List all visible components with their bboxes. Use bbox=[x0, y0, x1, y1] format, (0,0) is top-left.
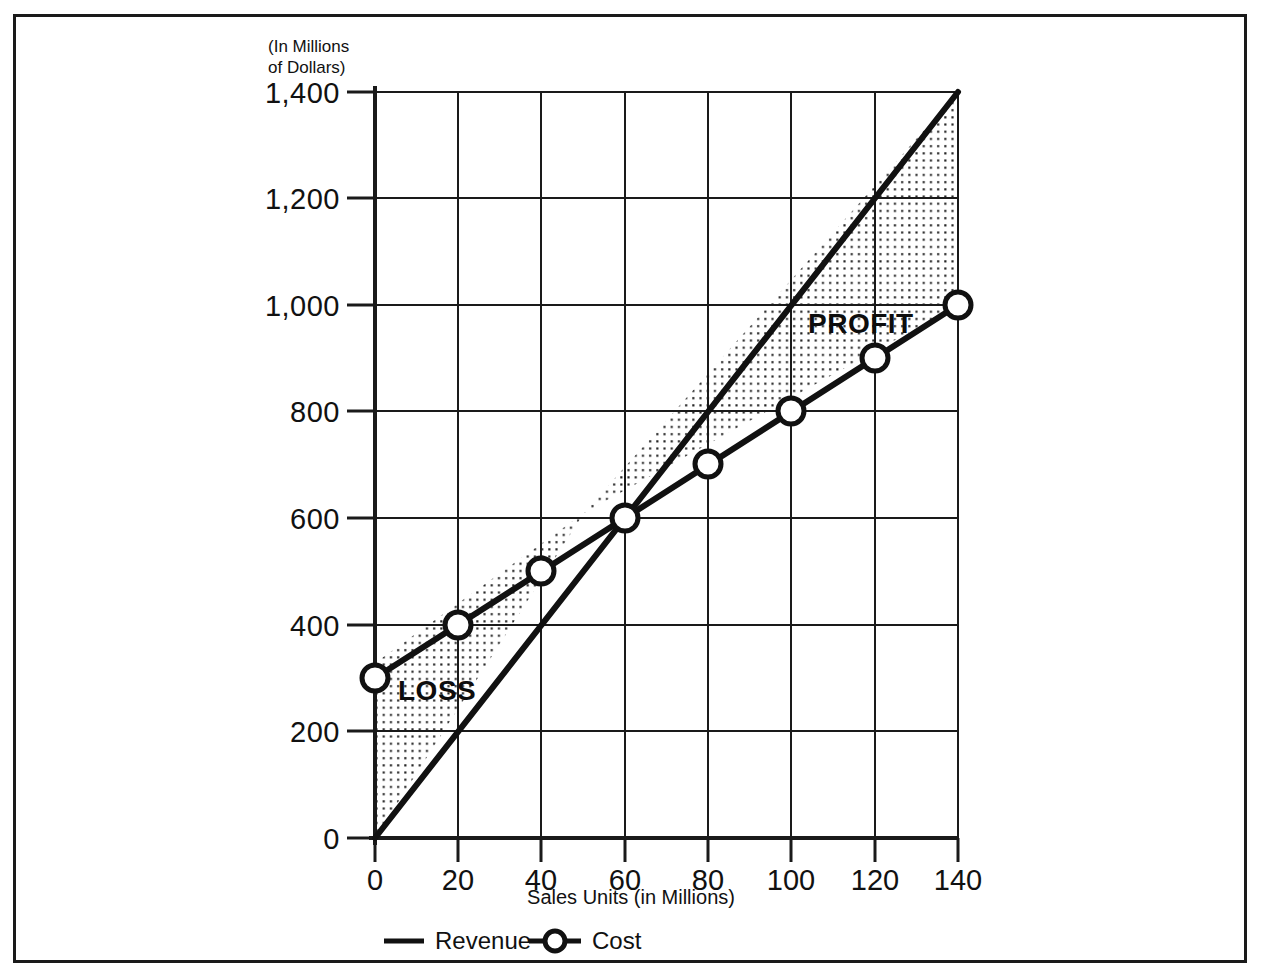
y-tick-label-1000: 1,000 bbox=[170, 290, 340, 323]
x-axis-title-text: Sales Units (in Millions) bbox=[527, 886, 735, 909]
data-point-cost-0 bbox=[362, 665, 388, 691]
y-tick-label-800: 800 bbox=[170, 396, 340, 429]
data-point-cost-120 bbox=[862, 345, 888, 371]
data-point-cost-40 bbox=[528, 558, 554, 584]
data-point-cost-80 bbox=[695, 451, 721, 477]
profit-shaded-region bbox=[584, 92, 958, 513]
profit-region-label: PROFIT bbox=[808, 308, 914, 340]
y-tick-label-1400: 1,400 bbox=[170, 77, 340, 110]
x-tick-marks bbox=[375, 838, 958, 862]
legend-line-swatch-icon bbox=[382, 933, 426, 949]
y-tick-label-0: 0 bbox=[170, 823, 340, 856]
chart-page: (In Millions of Dollars) bbox=[0, 0, 1262, 980]
loss-region-label: LOSS bbox=[398, 675, 476, 707]
legend: Revenue Cost bbox=[0, 924, 1262, 964]
legend-circle-line-swatch-icon bbox=[527, 928, 583, 954]
legend-label-revenue: Revenue bbox=[435, 927, 531, 955]
data-point-cost-100 bbox=[778, 398, 804, 424]
y-tick-label-600: 600 bbox=[170, 503, 340, 536]
x-axis-title: Sales Units (in Millions) bbox=[0, 886, 1262, 909]
data-point-cost-20 bbox=[445, 612, 471, 638]
y-tick-label-400: 400 bbox=[170, 610, 340, 643]
legend-item-cost[interactable]: Cost bbox=[527, 924, 641, 958]
y-tick-label-1200: 1,200 bbox=[170, 183, 340, 216]
data-point-cost-60 bbox=[612, 505, 638, 531]
series-revenue bbox=[375, 92, 958, 838]
break-even-chart: (In Millions of Dollars) bbox=[0, 0, 1262, 980]
legend-label-cost: Cost bbox=[592, 927, 641, 955]
legend-item-revenue[interactable]: Revenue bbox=[382, 924, 531, 958]
data-point-cost-140 bbox=[945, 292, 971, 318]
y-tick-label-200: 200 bbox=[170, 716, 340, 749]
y-tick-marks bbox=[347, 92, 375, 838]
